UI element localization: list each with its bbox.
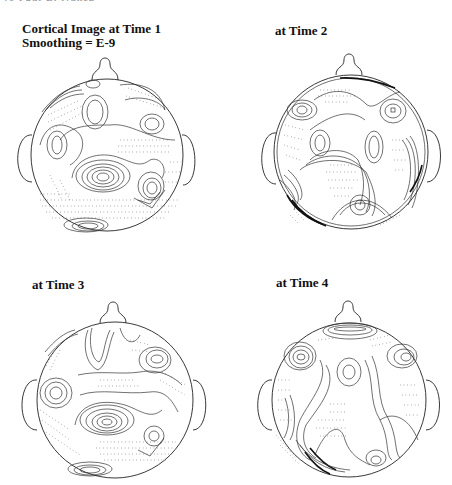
right-ear-icon — [193, 380, 206, 430]
right-ear-icon — [426, 380, 440, 430]
head-map-time4 — [258, 301, 440, 477]
left-ear-icon — [18, 135, 32, 182]
scalp-outline — [272, 323, 426, 477]
nose-icon — [335, 301, 361, 322]
right-ear-icon — [427, 130, 441, 182]
nose-icon — [92, 58, 118, 80]
nose-icon — [100, 302, 126, 323]
left-ear-icon — [258, 380, 272, 430]
left-ear-icon — [22, 380, 37, 430]
figure-canvas — [0, 0, 452, 485]
right-ear-icon — [182, 135, 195, 185]
head-map-time2 — [262, 54, 441, 229]
head-map-time1 — [18, 58, 195, 232]
head-map-time3 — [22, 302, 206, 478]
nose-icon — [336, 54, 362, 75]
scalp-outline — [37, 322, 193, 478]
